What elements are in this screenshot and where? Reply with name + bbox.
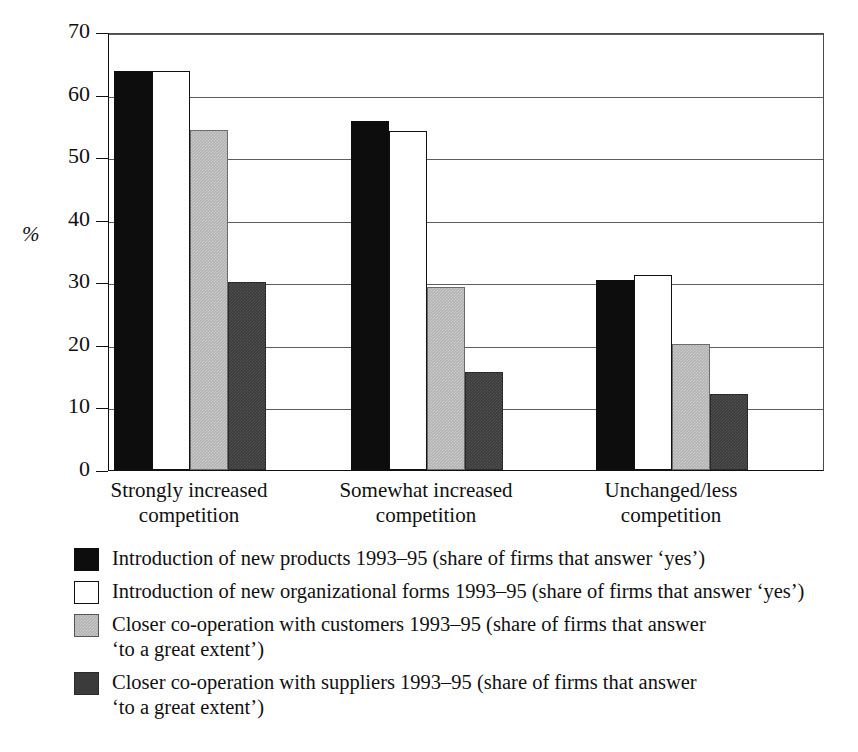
legend-item: Closer co-operation with customers 1993–… [74,612,854,662]
y-tick-label: 20 [44,333,90,355]
y-tick-label: 10 [44,395,90,417]
gridline [109,34,823,35]
bar [351,121,389,470]
y-tick-mark [96,408,108,409]
y-tick-mark [96,221,108,222]
chart-legend: Introduction of new products 1993–95 (sh… [74,546,854,728]
legend-item: Introduction of new products 1993–95 (sh… [74,546,854,571]
x-category-label: Strongly increased competition [59,478,319,528]
y-tick-label: 50 [44,145,90,167]
bar [634,275,672,470]
y-tick-label: 60 [44,83,90,105]
gridline [109,97,823,98]
black-swatch [74,548,99,571]
y-tick-mark [96,96,108,97]
y-tick-label: 30 [44,270,90,292]
y-tick-mark [96,33,108,34]
bar [228,282,266,470]
legend-label: Closer co-operation with suppliers 1993–… [112,670,697,720]
y-tick-mark [96,346,108,347]
y-tick-label: 40 [44,208,90,230]
bar [190,130,228,470]
bar [596,280,634,470]
bar [672,344,710,470]
y-tick-mark [96,158,108,159]
legend-label: Closer co-operation with customers 1993–… [112,612,706,662]
x-category-label: Somewhat increased competition [296,478,556,528]
dark-gray-swatch [74,672,99,695]
plot-area [108,33,824,471]
bar [427,287,465,470]
y-tick-label: 70 [44,20,90,42]
y-tick-label: 0 [44,458,90,480]
legend-item: Introduction of new organizational forms… [74,579,854,604]
legend-item: Closer co-operation with suppliers 1993–… [74,670,854,720]
bar [152,71,190,470]
chart-area: % 706050403020100 Strongly increased com… [0,0,858,535]
y-tick-mark [96,283,108,284]
bar [710,394,748,470]
bar [114,71,152,470]
white-swatch [74,581,99,604]
bar [465,372,503,470]
legend-label: Introduction of new organizational forms… [112,579,804,604]
light-gray-swatch [74,614,99,637]
bar [389,131,427,470]
bar-chart-figure: % 706050403020100 Strongly increased com… [0,0,858,752]
y-axis-title: % [22,222,40,247]
y-tick-mark [96,471,108,472]
legend-label: Introduction of new products 1993–95 (sh… [112,546,705,571]
x-category-label: Unchanged/less competition [541,478,801,528]
